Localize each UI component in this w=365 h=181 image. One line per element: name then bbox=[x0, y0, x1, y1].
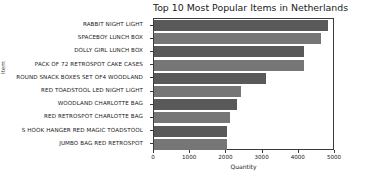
bar bbox=[154, 73, 266, 84]
x-axis-tick-label: 1000 bbox=[182, 154, 196, 161]
x-axis-tick-mark bbox=[225, 150, 226, 153]
bar-row bbox=[154, 32, 333, 45]
bar-row bbox=[154, 85, 333, 98]
bar-row bbox=[154, 111, 333, 124]
bar bbox=[154, 139, 227, 150]
bar bbox=[154, 33, 321, 44]
x-axis-tick-mark bbox=[298, 150, 299, 153]
plot-area bbox=[153, 18, 334, 150]
y-axis-tick-label: S HOOK HANGER RED MAGIC TOADSTOOL bbox=[22, 124, 143, 137]
y-axis-tick-label: ROUND SNACK BOXES SET OF4 WOODLAND bbox=[16, 71, 143, 84]
bar-row bbox=[154, 125, 333, 138]
y-axis-tick-label: SPACEBOY LUNCH BOX bbox=[78, 31, 143, 44]
x-axis-title: Quantity bbox=[153, 163, 334, 170]
y-axis-tick-labels: RABBIT NIGHT LIGHTSPACEBOY LUNCH BOXDOLL… bbox=[0, 18, 149, 150]
bar-row bbox=[154, 138, 333, 151]
bar bbox=[154, 46, 304, 57]
bar bbox=[154, 112, 230, 123]
bar-row bbox=[154, 98, 333, 111]
bar-row bbox=[154, 45, 333, 58]
bars-layer bbox=[154, 19, 333, 149]
x-axis-tick-mark bbox=[153, 150, 154, 153]
bar bbox=[154, 20, 328, 31]
bar-row bbox=[154, 72, 333, 85]
y-axis-tick-label: RED RETROSPOT CHARLOTTE BAG bbox=[44, 110, 143, 123]
chart-figure: Top 10 Most Popular Items in Netherlands… bbox=[0, 0, 365, 181]
y-axis-tick-label: RABBIT NIGHT LIGHT bbox=[83, 18, 143, 31]
x-axis-tick-label: 3000 bbox=[254, 154, 268, 161]
chart-title: Top 10 Most Popular Items in Netherlands bbox=[153, 2, 335, 14]
x-axis-tick-label: 4000 bbox=[291, 154, 305, 161]
bar bbox=[154, 86, 241, 97]
x-axis-tick-mark bbox=[334, 150, 335, 153]
y-axis-tick-label: RED TOADSTOOL LED NIGHT LIGHT bbox=[41, 84, 143, 97]
bar-row bbox=[154, 19, 333, 32]
x-axis-tick-mark bbox=[262, 150, 263, 153]
y-axis-tick-label: DOLLY GIRL LUNCH BOX bbox=[74, 44, 143, 57]
bar bbox=[154, 99, 237, 110]
bar bbox=[154, 60, 304, 71]
bar-row bbox=[154, 59, 333, 72]
x-axis-tick-label: 2000 bbox=[218, 154, 232, 161]
y-axis-tick-label: WOODLAND CHARLOTTE BAG bbox=[58, 97, 143, 110]
x-axis-tick-label: 0 bbox=[151, 154, 155, 161]
y-axis-tick-label: PACK OF 72 RETROSPOT CAKE CASES bbox=[35, 58, 143, 71]
y-axis-tick-label: JUMBO BAG RED RETROSPOT bbox=[59, 137, 143, 150]
bar bbox=[154, 126, 227, 137]
x-axis-tick-label: 5000 bbox=[327, 154, 341, 161]
x-axis-tick-mark bbox=[189, 150, 190, 153]
